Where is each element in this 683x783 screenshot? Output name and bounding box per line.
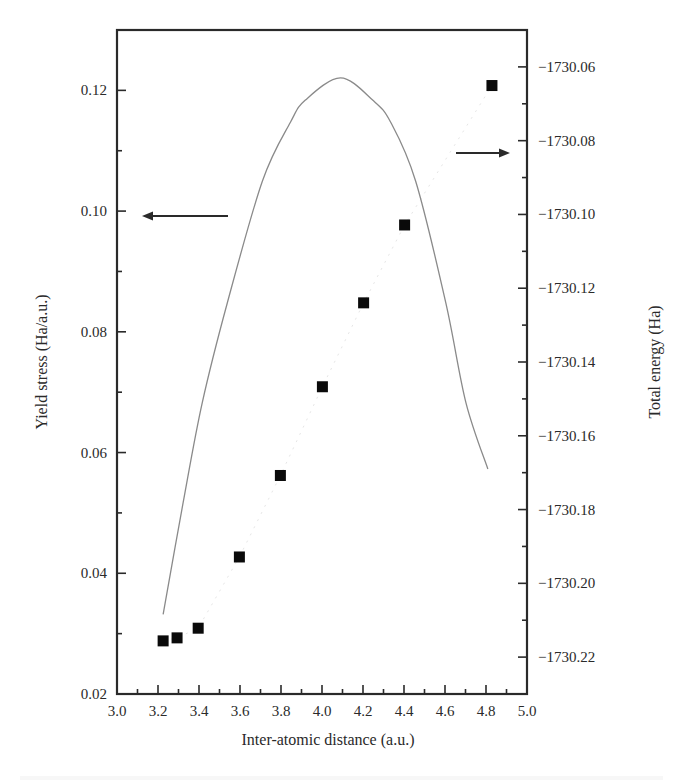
x-tick-label: 3.2 <box>149 703 168 719</box>
x-tick-label: 3.4 <box>190 703 209 719</box>
left-arrow-head-icon <box>142 212 153 221</box>
x-tick-label: 3.6 <box>231 703 250 719</box>
y-axis-left-title: Yield stress (Ha/a.u.) <box>33 294 51 429</box>
right-arrow-head-icon <box>499 149 510 158</box>
yield-stress-marker <box>193 623 204 634</box>
y-right-tick-label: −1730.22 <box>538 649 595 665</box>
x-tick-label: 3.0 <box>108 703 127 719</box>
yield-stress-marker <box>317 381 328 392</box>
y-right-tick-label: −1730.18 <box>538 502 595 518</box>
y-right-tick-label: −1730.10 <box>538 206 595 222</box>
yield-stress-marker <box>358 297 369 308</box>
y-right-tick-label: −1730.08 <box>538 133 595 149</box>
x-tick-label: 4.6 <box>436 703 455 719</box>
yield-stress-marker <box>275 470 286 481</box>
yield-stress-marker <box>234 551 245 562</box>
x-tick-label: 4.8 <box>477 703 496 719</box>
x-axis-title: Inter-atomic distance (a.u.) <box>242 731 415 749</box>
y-right-tick-label: −1730.14 <box>538 354 596 370</box>
x-tick-label: 4.4 <box>395 703 414 719</box>
y-left-tick-label: 0.08 <box>81 324 107 340</box>
caption-remnant <box>20 776 663 780</box>
x-tick-label: 4.0 <box>313 703 332 719</box>
y-right-tick-label: −1730.12 <box>538 280 595 296</box>
y-left-tick-label: 0.06 <box>81 445 108 461</box>
y-axis-right-title: Total energy (Ha) <box>646 305 664 418</box>
y-left-tick-label: 0.10 <box>81 203 107 219</box>
x-tick-label: 4.2 <box>354 703 373 719</box>
y-left-tick-label: 0.02 <box>81 686 107 702</box>
y-right-tick-label: −1730.16 <box>538 428 596 444</box>
y-left-tick-label: 0.04 <box>81 565 108 581</box>
y-left-tick-label: 0.12 <box>81 82 107 98</box>
yield-stress-marker <box>399 219 410 230</box>
yield-stress-marker <box>158 635 169 646</box>
yield-stress-marker <box>486 80 497 91</box>
yield-stress-trend <box>163 86 492 641</box>
y-right-tick-label: −1730.06 <box>538 59 596 75</box>
yield-stress-marker <box>172 632 183 643</box>
dual-axis-chart: 3.03.23.43.63.84.04.24.44.64.85.00.020.0… <box>0 0 683 783</box>
x-tick-label: 3.8 <box>272 703 291 719</box>
total-energy-curve <box>163 78 488 614</box>
x-tick-label: 5.0 <box>518 703 537 719</box>
y-right-tick-label: −1730.20 <box>538 575 595 591</box>
plot-frame <box>117 30 527 694</box>
